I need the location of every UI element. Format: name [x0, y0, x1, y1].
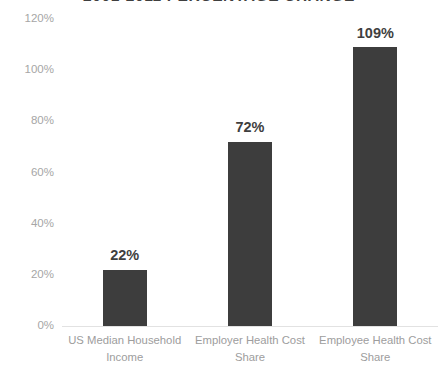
x-axis-category-line: Share	[313, 349, 438, 366]
y-axis-tick-label: 0%	[37, 320, 54, 332]
bar-value-label: 72%	[235, 120, 264, 135]
y-axis-tick-label: 80%	[31, 116, 54, 128]
bar-value-label: 109%	[357, 26, 394, 41]
x-axis-category-line: Employee Health Cost	[313, 332, 438, 349]
chart-title: 2001-2011 PERCENTAGE CHANGE	[0, 0, 438, 5]
y-axis-tick-label: 120%	[25, 13, 54, 25]
y-axis: 0%20%40%60%80%100%120%	[0, 19, 62, 326]
x-axis: US Median HouseholdIncomeEmployer Health…	[62, 332, 438, 375]
x-axis-category-line: Employer Health Cost	[187, 332, 312, 349]
bar	[228, 142, 272, 326]
y-axis-tick-label: 20%	[31, 269, 54, 281]
x-axis-category-label: Employer Health CostShare	[187, 332, 312, 366]
x-axis-category-label: Employee Health CostShare	[313, 332, 438, 366]
y-axis-tick-label: 100%	[25, 64, 54, 76]
bar	[103, 270, 147, 326]
bar-chart: 2001-2011 PERCENTAGE CHANGE 0%20%40%60%8…	[0, 0, 438, 375]
y-axis-tick-label: 40%	[31, 218, 54, 230]
x-axis-category-line: Income	[62, 349, 187, 366]
bar	[353, 47, 397, 326]
bar-group: 22%	[62, 19, 187, 326]
axis-baseline	[62, 326, 438, 327]
y-axis-tick-label: 60%	[31, 167, 54, 179]
x-axis-category-line: Share	[187, 349, 312, 366]
bar-group: 109%	[313, 19, 438, 326]
bar-group: 72%	[187, 19, 312, 326]
x-axis-category-line: US Median Household	[62, 332, 187, 349]
bars-layer: 22%72%109%	[62, 19, 438, 326]
bar-value-label: 22%	[110, 248, 139, 263]
x-axis-category-label: US Median HouseholdIncome	[62, 332, 187, 366]
